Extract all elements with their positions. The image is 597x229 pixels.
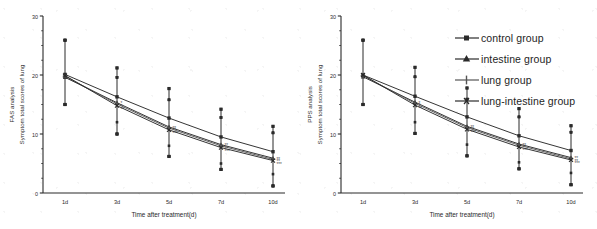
series-cap-marker bbox=[168, 98, 171, 101]
square-marker bbox=[115, 95, 118, 98]
series-cap-marker bbox=[220, 108, 223, 111]
square-marker bbox=[413, 95, 416, 98]
legend-label: lung-intestine group bbox=[481, 95, 575, 107]
series-cap-marker bbox=[116, 133, 119, 136]
series-cap-marker bbox=[272, 132, 275, 135]
panel-pps: 01020301d3d5d7d10dTime after treatment(d… bbox=[298, 0, 596, 229]
series-cap-marker bbox=[220, 162, 223, 165]
series-cap-marker bbox=[272, 185, 275, 188]
fas-chart-canvas: 01020301d3d5d7d10dTime after treatment(d… bbox=[0, 0, 298, 229]
square-marker bbox=[569, 149, 572, 152]
square-marker bbox=[219, 135, 222, 138]
y-axis-title: Symptom total scores of lung bbox=[316, 64, 323, 144]
significance-annotation: *** bbox=[277, 162, 283, 167]
y-tick-label: 20 bbox=[32, 73, 38, 79]
y-axis-title: Symptom total scores of lung bbox=[18, 64, 25, 144]
y-tick-label: 0 bbox=[333, 191, 336, 197]
cross-marker-icon bbox=[453, 94, 481, 108]
x-tick-label: 10d bbox=[268, 199, 277, 205]
series-cap-marker bbox=[272, 173, 275, 176]
series-cap-marker bbox=[362, 39, 365, 42]
y-tick-label: 10 bbox=[32, 132, 38, 138]
x-tick-label: 5d bbox=[166, 199, 172, 205]
x-axis-title: Time after treatment(d) bbox=[131, 211, 196, 219]
x-tick-label: 1d bbox=[62, 199, 68, 205]
legend-item: intestine group bbox=[453, 51, 595, 67]
x-tick-label: 7d bbox=[516, 199, 522, 205]
series-cap-marker bbox=[570, 172, 573, 175]
series-cap-marker bbox=[168, 145, 171, 148]
square-marker bbox=[271, 150, 274, 153]
error-bars-group bbox=[63, 39, 274, 188]
series-cap-marker bbox=[362, 103, 365, 106]
series-cap-marker bbox=[570, 183, 573, 186]
series-cap-marker bbox=[168, 87, 171, 90]
series-cap-marker bbox=[518, 161, 521, 164]
triangle-marker-icon bbox=[453, 52, 481, 66]
x-tick-label: 3d bbox=[412, 199, 418, 205]
square-marker bbox=[517, 134, 520, 137]
x-tick-label: 1d bbox=[360, 199, 366, 205]
significance-annotation: *** bbox=[575, 161, 581, 166]
legend-label: lung group bbox=[481, 74, 532, 86]
series-cap-marker bbox=[220, 168, 223, 171]
legend-item: control group bbox=[453, 30, 595, 46]
legend-label: control group bbox=[481, 32, 544, 44]
two-panel-figure: 01020301d3d5d7d10dTime after treatment(d… bbox=[0, 0, 597, 229]
y-tick-label: 20 bbox=[330, 73, 336, 79]
panel-fas: 01020301d3d5d7d10dTime after treatment(d… bbox=[0, 0, 298, 229]
series-cap-marker bbox=[168, 155, 171, 158]
series-cap-marker bbox=[414, 132, 417, 135]
series-cap-marker bbox=[116, 67, 119, 70]
series-cap-marker bbox=[466, 155, 469, 158]
series-cap-marker bbox=[414, 75, 417, 78]
series-cap-marker bbox=[414, 66, 417, 69]
y-tick-label: 0 bbox=[35, 191, 38, 197]
y-tick-label: 30 bbox=[330, 14, 336, 20]
series-cap-marker bbox=[272, 125, 275, 128]
plus-marker-icon bbox=[453, 73, 481, 87]
square-marker bbox=[167, 116, 170, 119]
series-cap-marker bbox=[570, 124, 573, 127]
x-tick-label: 5d bbox=[464, 199, 470, 205]
chart-legend: control group intestine group lung group bbox=[453, 30, 595, 109]
series-cap-marker bbox=[116, 76, 119, 79]
series-cap-marker bbox=[518, 116, 521, 119]
y-tick-label: 10 bbox=[330, 132, 336, 138]
series-cap-marker bbox=[64, 103, 67, 106]
y-axis-analysis-label: FAS analysis bbox=[8, 87, 15, 123]
series-cap-marker bbox=[64, 39, 67, 42]
legend-item: lung-intestine group bbox=[453, 93, 595, 109]
x-tick-label: 10d bbox=[566, 199, 575, 205]
series-cap-marker bbox=[414, 121, 417, 124]
legend-item: lung group bbox=[453, 72, 595, 88]
series-cap-marker bbox=[220, 116, 223, 119]
square-marker-icon bbox=[453, 31, 481, 45]
y-tick-label: 30 bbox=[32, 14, 38, 20]
square-marker bbox=[465, 115, 468, 118]
y-axis-analysis-label: PPS analysis bbox=[306, 86, 313, 122]
series-cap-marker bbox=[466, 143, 469, 146]
legend-label: intestine group bbox=[481, 53, 551, 65]
x-tick-label: 3d bbox=[114, 199, 120, 205]
series-cap-marker bbox=[518, 168, 521, 171]
series-cap-marker bbox=[570, 131, 573, 134]
x-axis-title: Time after treatment(d) bbox=[429, 211, 494, 219]
x-tick-label: 7d bbox=[218, 199, 224, 205]
series-cap-marker bbox=[116, 121, 119, 124]
